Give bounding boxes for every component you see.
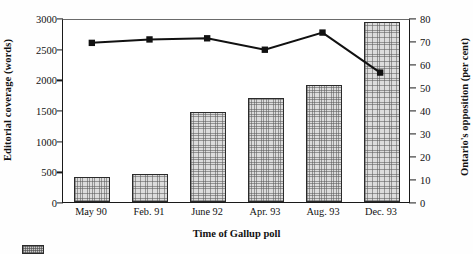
y-tick-label-left: 500	[13, 167, 57, 178]
y-tick-label-right: 60	[420, 60, 460, 71]
x-tick-label: Feb. 91	[134, 206, 165, 217]
line-marker	[319, 29, 325, 35]
y-tick-label-right: 50	[420, 83, 460, 94]
line-marker	[377, 69, 383, 75]
y-tick-mark-right	[409, 202, 416, 203]
line-path	[92, 33, 380, 73]
y-tick-mark-right	[409, 156, 416, 157]
x-tick-label: June 92	[191, 206, 223, 217]
y-tick-mark-right	[409, 179, 416, 180]
y-tick-label-left: 1000	[13, 136, 57, 147]
chart-figure: Editorial coverage (words) Ontario's opp…	[0, 0, 473, 254]
y-tick-label-right: 70	[420, 37, 460, 48]
y-tick-label-left: 0	[13, 198, 57, 209]
plot-area	[62, 19, 410, 203]
x-tick-label: May 90	[75, 206, 107, 217]
x-tick-label: Apr. 93	[250, 206, 281, 217]
chart-legend	[22, 245, 50, 254]
line-marker	[262, 47, 268, 53]
x-tick-label: Dec. 93	[365, 206, 397, 217]
line-series	[63, 20, 409, 203]
y-tick-label-right: 20	[420, 152, 460, 163]
line-marker	[89, 40, 95, 46]
x-axis-title: Time of Gallup poll	[0, 228, 473, 239]
x-tick-label: Aug. 93	[306, 206, 339, 217]
y-tick-label-left: 3000	[13, 14, 57, 25]
y-tick-mark-right	[409, 110, 416, 111]
y-tick-label-left: 2000	[13, 75, 57, 86]
line-marker	[204, 35, 210, 41]
y-tick-mark-right	[409, 41, 416, 42]
y-tick-mark-right	[409, 64, 416, 65]
y-tick-label-right: 30	[420, 129, 460, 140]
y-tick-mark-right	[409, 133, 416, 134]
legend-swatch-icon	[22, 245, 44, 254]
y-tick-mark-right	[409, 87, 416, 88]
y-tick-label-right: 10	[420, 175, 460, 186]
line-marker	[146, 36, 152, 42]
y-tick-label-left: 2500	[13, 44, 57, 55]
y-tick-label-right: 40	[420, 106, 460, 117]
y-tick-label-right: 0	[420, 198, 460, 209]
y-tick-label-left: 1500	[13, 106, 57, 117]
y-tick-mark-right	[409, 18, 416, 19]
y-tick-label-right: 80	[420, 14, 460, 25]
